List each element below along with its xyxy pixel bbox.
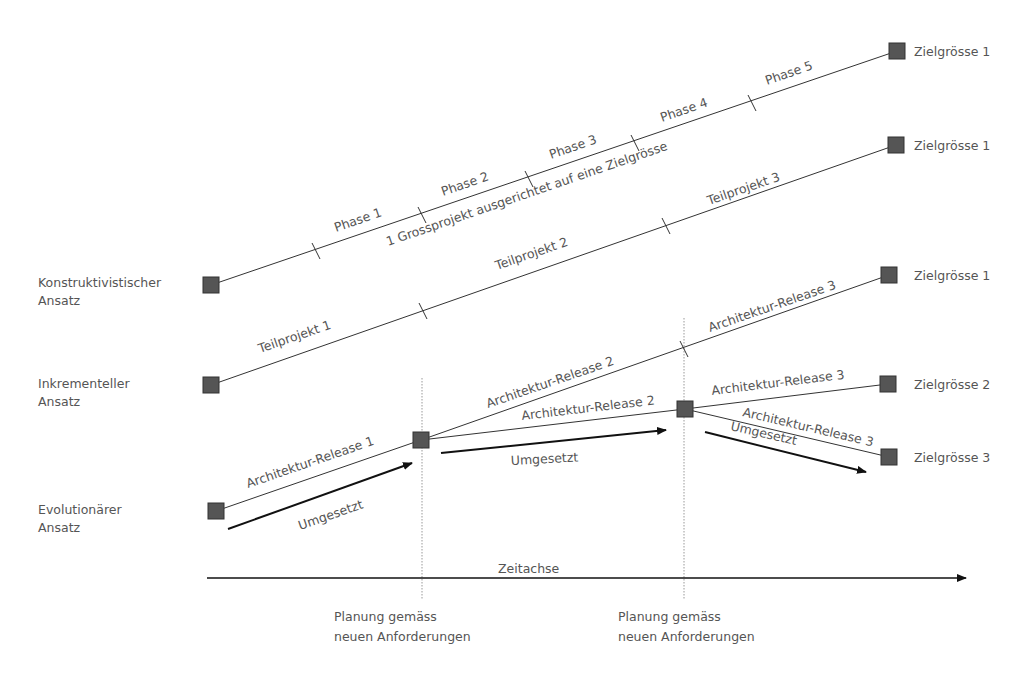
planning-note-line: Planung gemäss	[618, 607, 755, 627]
teilprojekt-1-label: Teilprojekt 1	[255, 317, 333, 356]
implemented-label-2: Umgesetzt	[510, 449, 578, 468]
approach-label-incremental: Inkrementeller Ansatz	[38, 375, 130, 411]
phase-5-label: Phase 5	[763, 58, 814, 88]
release-node-1	[413, 432, 429, 448]
start-node-constructivist	[203, 277, 219, 293]
approach-label-line: Ansatz	[38, 519, 122, 537]
time-axis-label: Zeitachse	[498, 561, 560, 576]
release-2-lower-label: Architektur-Release 2	[521, 392, 656, 423]
release-node-2	[677, 401, 693, 417]
approach-label-line: Ansatz	[38, 292, 161, 310]
approach-label-line: Konstruktivistischer	[38, 274, 161, 292]
grossprojekt-caption: 1 Grossprojekt ausgerichtet auf eine Zie…	[384, 138, 670, 249]
planning-note-1: Planung gemäss neuen Anforderungen	[334, 607, 471, 647]
planning-note-line: Planung gemäss	[334, 607, 471, 627]
teilprojekt-2-label: Teilprojekt 2	[492, 234, 570, 273]
planning-note-line: neuen Anforderungen	[618, 627, 755, 647]
planning-note-line: neuen Anforderungen	[334, 627, 471, 647]
planning-note-2: Planung gemäss neuen Anforderungen	[618, 607, 755, 647]
release-3-mid-label: Architektur-Release 3	[711, 367, 846, 398]
target-label-constructivist: Zielgrösse 1	[914, 44, 990, 59]
diagram-canvas: Phase 1 Phase 2 Phase 3 Phase 4 Phase 5 …	[0, 0, 1024, 676]
target-label-evolutionary-3: Zielgrösse 3	[914, 450, 990, 465]
approach-label-line: Ansatz	[38, 393, 130, 411]
target-label-incremental: Zielgrösse 1	[914, 138, 990, 153]
target-node-evolutionary-3	[881, 449, 897, 465]
phase-1-label: Phase 1	[332, 205, 383, 235]
target-node-evolutionary-2	[880, 376, 896, 392]
target-node-incremental	[888, 137, 904, 153]
start-node-incremental	[203, 377, 219, 393]
phase-4-label: Phase 4	[658, 95, 709, 125]
teilprojekt-3-label: Teilprojekt 3	[704, 169, 782, 208]
evolutionary-track	[216, 275, 889, 511]
start-node-evolutionary	[208, 503, 224, 519]
approach-label-constructivist: Konstruktivistischer Ansatz	[38, 274, 161, 310]
release-3-upper-label: Architektur-Release 3	[706, 277, 838, 335]
phase-2-label: Phase 2	[439, 169, 490, 199]
implemented-label-1: Umgesetzt	[296, 497, 365, 533]
phase-3-label: Phase 3	[547, 132, 598, 162]
approach-label-evolutionary: Evolutionärer Ansatz	[38, 501, 122, 537]
target-node-constructivist	[889, 43, 905, 59]
target-label-evolutionary-2: Zielgrösse 2	[914, 377, 990, 392]
target-node-evolutionary-1	[881, 267, 897, 283]
approach-label-line: Inkrementeller	[38, 375, 130, 393]
approach-label-line: Evolutionärer	[38, 501, 122, 519]
target-label-evolutionary-1: Zielgrösse 1	[914, 268, 990, 283]
